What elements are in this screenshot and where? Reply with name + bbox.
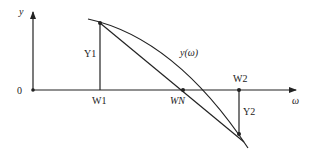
x-axis-label: ω xyxy=(292,95,299,106)
curve-y-omega xyxy=(88,19,248,148)
y2-label: Y2 xyxy=(243,106,255,117)
curve-label: y(ω) xyxy=(179,47,199,59)
origin-label: 0 xyxy=(17,85,22,96)
point-w2-y2 xyxy=(237,132,241,136)
w1-label: W1 xyxy=(92,95,106,106)
y1-label: Y1 xyxy=(84,48,96,59)
w2-label: W2 xyxy=(233,73,247,84)
origin-dot xyxy=(31,88,35,92)
y-axis-label: y xyxy=(18,6,24,17)
wn-label: WN xyxy=(170,95,186,106)
secant-method-diagram: y ω 0 Y1 W1 y(ω) W2 WN Y2 xyxy=(0,0,315,159)
secant-line xyxy=(100,23,244,142)
point-wn xyxy=(181,88,185,92)
point-w2-axis xyxy=(237,88,241,92)
point-w1-y1 xyxy=(98,21,102,25)
